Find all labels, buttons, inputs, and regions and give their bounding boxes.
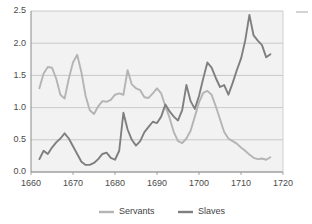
y-tick-label: 2.0 [13, 38, 26, 48]
legend-label-servants: Servants [119, 206, 155, 216]
y-tick-label: 2.5 [13, 5, 26, 15]
y-tick-label: 1.5 [13, 70, 26, 80]
legend-label-slaves: Slaves [198, 206, 226, 216]
x-tick-label: 1670 [63, 178, 83, 188]
x-tick-label: 1680 [105, 178, 125, 188]
y-tick-label: 1.0 [13, 102, 26, 112]
y-tick-label: 0.0 [13, 166, 26, 176]
x-tick-label: 1690 [147, 178, 167, 188]
x-tick-label: 1720 [273, 178, 293, 188]
x-tick-label: 1660 [21, 178, 41, 188]
x-tick-label: 1700 [189, 178, 209, 188]
y-tick-label: 0.5 [13, 134, 26, 144]
x-tick-label: 1710 [231, 178, 251, 188]
chart-figure: 0.00.51.01.52.02.5 166016701680169017001… [0, 0, 312, 224]
line-chart: 0.00.51.01.52.02.5 166016701680169017001… [0, 0, 312, 224]
